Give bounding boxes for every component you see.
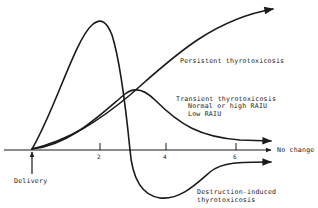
label-no-change: No change <box>277 147 315 154</box>
tick-label-6: 6 <box>233 153 237 160</box>
label-persistent-thyrotoxicosis: Persistent thyrotoxicosis <box>180 58 284 65</box>
label-delivery: Delivery <box>14 178 47 185</box>
curve-transient-normal-high-raiu <box>32 21 130 150</box>
postpartum-thyroid-diagram <box>0 0 318 208</box>
tick-label-4: 4 <box>163 153 167 160</box>
curve-persistent <box>32 9 273 149</box>
label-destruction-induced-line2: thyrotoxicosis <box>197 197 255 204</box>
tick-label-2: 2 <box>97 153 101 160</box>
label-destruction-induced-line1: Destruction-induced <box>197 189 276 196</box>
label-normal-or-high-raiu: Normal or high RAIU <box>188 103 267 110</box>
label-low-raiu: Low RAIU <box>188 111 221 118</box>
